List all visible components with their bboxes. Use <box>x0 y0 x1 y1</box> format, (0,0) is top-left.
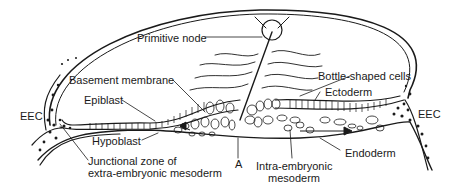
label-ectoderm: Ectoderm <box>325 86 372 98</box>
diagram-artwork <box>0 0 459 188</box>
label-intra-embryonic-line2: mesoderm <box>268 172 320 184</box>
label-bottle-shaped-cells: Bottle-shaped cells <box>318 70 411 82</box>
embryo-diagram: Primitive node Basement membrane Bottle-… <box>0 0 459 188</box>
label-hypoblast: Hypoblast <box>92 135 141 147</box>
label-endoderm: Endoderm <box>345 147 396 159</box>
label-eec-right: EEC <box>418 108 441 120</box>
label-intra-embryonic-line1: Intra-embryonic <box>256 160 332 172</box>
label-a-marker: A <box>235 158 242 170</box>
label-eec-left: EEC <box>20 110 43 122</box>
label-primitive-node: Primitive node <box>137 32 207 44</box>
label-junctional-zone-line1: Junctional zone of <box>88 155 177 167</box>
label-junctional-zone-line2: extra-embryonic mesoderm <box>88 167 222 179</box>
label-epiblast: Epiblast <box>84 94 123 106</box>
label-basement-membrane: Basement membrane <box>69 74 174 86</box>
